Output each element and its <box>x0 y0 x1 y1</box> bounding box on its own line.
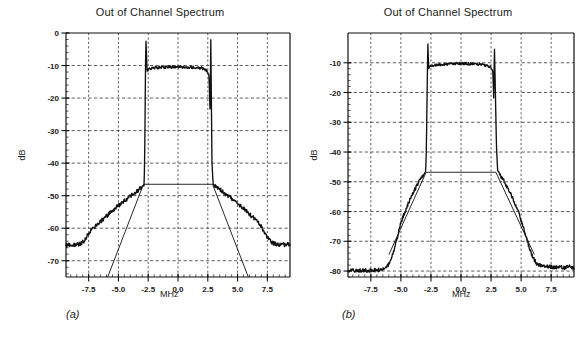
x-axis-label-a: MHz <box>160 289 179 299</box>
svg-text:-10: -10 <box>47 62 59 71</box>
svg-text:-2.5: -2.5 <box>141 285 155 294</box>
svg-text:-2.5: -2.5 <box>424 285 438 294</box>
y-axis-label-a: dB <box>17 149 27 160</box>
y-axis-label-b: dB <box>309 149 319 160</box>
subfigure-caption-a: (a) <box>66 308 79 320</box>
svg-text:-60: -60 <box>329 208 341 217</box>
svg-text:-5.0: -5.0 <box>394 285 408 294</box>
svg-text:-70: -70 <box>329 237 341 246</box>
plot-area-b: -10-20-30-40-50-60-70-80-7.5-5.0-2.50.02… <box>292 0 584 340</box>
svg-text:0: 0 <box>55 29 60 38</box>
svg-text:2.5: 2.5 <box>202 285 214 294</box>
figure-out-of-channel-spectrum: Out of Channel Spectrum 0-10-20-30-40-50… <box>0 0 584 340</box>
svg-text:-40: -40 <box>47 159 59 168</box>
svg-text:-60: -60 <box>47 224 59 233</box>
chart-panel-a: Out of Channel Spectrum 0-10-20-30-40-50… <box>0 0 292 340</box>
plot-area-a: 0-10-20-30-40-50-60-70-7.5-5.0-2.50.02.5… <box>0 0 292 340</box>
svg-text:-20: -20 <box>329 89 341 98</box>
svg-text:-30: -30 <box>47 127 59 136</box>
svg-text:-5.0: -5.0 <box>112 285 126 294</box>
svg-text:-80: -80 <box>329 267 341 276</box>
svg-text:5.0: 5.0 <box>516 285 528 294</box>
x-axis-label-b: MHz <box>452 289 471 299</box>
svg-text:2.5: 2.5 <box>485 285 497 294</box>
svg-text:-50: -50 <box>47 192 59 201</box>
svg-text:5.0: 5.0 <box>232 285 244 294</box>
subfigure-caption-b: (b) <box>342 308 355 320</box>
svg-text:7.5: 7.5 <box>546 285 558 294</box>
chart-panel-b: Out of Channel Spectrum -10-20-30-40-50-… <box>292 0 584 340</box>
svg-text:-70: -70 <box>47 257 59 266</box>
svg-text:7.5: 7.5 <box>262 285 274 294</box>
svg-text:-7.5: -7.5 <box>82 285 96 294</box>
svg-text:-50: -50 <box>329 178 341 187</box>
svg-text:-30: -30 <box>329 118 341 127</box>
svg-text:-20: -20 <box>47 94 59 103</box>
svg-text:-7.5: -7.5 <box>364 285 378 294</box>
svg-text:-10: -10 <box>329 59 341 68</box>
svg-text:-40: -40 <box>329 148 341 157</box>
